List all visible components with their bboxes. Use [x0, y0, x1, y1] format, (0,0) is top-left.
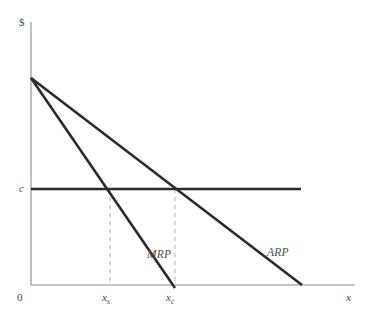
x-tick-label-xc: xc	[166, 292, 174, 306]
origin-label: 0	[17, 292, 23, 303]
x-tick-xc-subscript: c	[171, 297, 174, 306]
mrp-curve-label: MRP	[147, 249, 171, 261]
x-tick-xs-subscript: s	[107, 297, 110, 306]
y-tick-label-c: c	[19, 183, 24, 194]
x-axis-label: x	[346, 292, 351, 303]
y-axis-label: $	[19, 17, 25, 28]
economics-diagram: $ c 0 xs xc x MRP ARP	[0, 0, 372, 324]
arp-curve-label: ARP	[267, 247, 289, 259]
plot-canvas	[0, 0, 372, 324]
x-tick-label-xs: xs	[102, 292, 110, 306]
